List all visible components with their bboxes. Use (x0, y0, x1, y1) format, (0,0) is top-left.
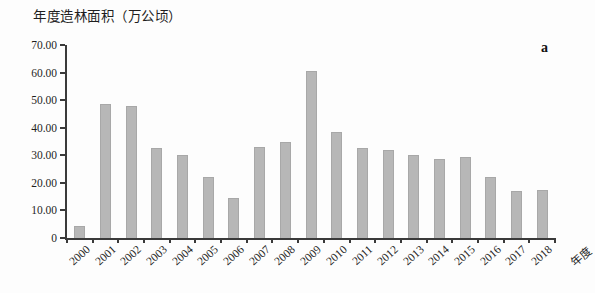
bar-2005 (203, 177, 214, 238)
bar-2011 (357, 148, 368, 238)
y-axis-tick-label: 50.00 (13, 93, 57, 107)
x-axis-tick (323, 238, 325, 243)
y-axis-tick (60, 72, 65, 74)
x-axis-tick (66, 238, 68, 243)
bar-2006 (228, 198, 239, 238)
x-axis-tick (117, 238, 119, 243)
x-axis-tick (503, 238, 505, 243)
chart-title: 年度造林面积（万公顷） (33, 5, 182, 25)
x-axis-tick-label: 2000 (67, 243, 92, 267)
x-axis-tick-label: 2014 (426, 243, 451, 267)
x-axis-tick-label: 2002 (118, 243, 143, 267)
bar-2003 (151, 148, 162, 238)
y-axis-tick-label: 0 (13, 231, 57, 245)
bar-2012 (383, 150, 394, 238)
y-axis-tick-label: 60.00 (13, 66, 57, 80)
x-axis-tick-label: 2012 (375, 243, 400, 267)
bar-2018 (537, 190, 548, 238)
y-axis-tick (60, 127, 65, 129)
x-axis-tick (92, 238, 94, 243)
x-axis-tick-label: 2009 (298, 243, 323, 267)
x-axis-tick-label: 2017 (503, 243, 528, 267)
chart-canvas: 年度造林面积（万公顷） a 010.0020.0030.0040.0050.00… (0, 0, 595, 293)
x-axis-tick (169, 238, 171, 243)
bar-2013 (408, 155, 419, 238)
x-axis-tick (374, 238, 376, 243)
plot-area: 010.0020.0030.0040.0050.0060.0070.002000… (65, 45, 555, 240)
x-axis-tick-label: 2005 (195, 243, 220, 267)
x-axis-tick-label: 2007 (247, 243, 272, 267)
bar-2009 (306, 71, 317, 238)
bar-2007 (254, 147, 265, 238)
bar-2000 (74, 226, 85, 238)
x-axis-title: 年度 (567, 243, 594, 270)
y-axis-tick (60, 209, 65, 211)
x-axis-tick-label: 2004 (170, 243, 195, 267)
x-axis-tick-label: 2018 (529, 243, 554, 267)
x-axis-tick (194, 238, 196, 243)
x-axis-tick (554, 238, 556, 243)
x-axis-tick (220, 238, 222, 243)
y-axis-tick (60, 99, 65, 101)
x-axis-tick-label: 2001 (92, 243, 117, 267)
y-axis-tick (60, 237, 65, 239)
y-axis-tick-label: 30.00 (13, 148, 57, 162)
x-axis-tick (477, 238, 479, 243)
x-axis-tick-label: 2008 (272, 243, 297, 267)
x-axis-tick-label: 2006 (221, 243, 246, 267)
x-axis-tick-label: 2016 (478, 243, 503, 267)
x-axis-tick-label: 2010 (324, 243, 349, 267)
y-axis-tick-label: 40.00 (13, 121, 57, 135)
x-axis-tick (246, 238, 248, 243)
x-axis-tick (400, 238, 402, 243)
x-axis-tick (426, 238, 428, 243)
x-axis-tick (143, 238, 145, 243)
y-axis-tick (60, 154, 65, 156)
bar-2008 (280, 142, 291, 239)
bar-2015 (460, 157, 471, 238)
bar-2004 (177, 155, 188, 238)
x-axis-tick (528, 238, 530, 243)
y-axis-tick (60, 44, 65, 46)
y-axis-tick-label: 70.00 (13, 38, 57, 52)
x-axis-tick (297, 238, 299, 243)
x-axis-tick (349, 238, 351, 243)
y-axis-tick-label: 20.00 (13, 176, 57, 190)
bar-2010 (331, 132, 342, 238)
bar-2001 (100, 104, 111, 238)
x-axis-tick-label: 2011 (350, 243, 375, 267)
x-axis-tick-label: 2013 (401, 243, 426, 267)
x-axis-tick (451, 238, 453, 243)
x-axis-tick-label: 2003 (144, 243, 169, 267)
y-axis-tick-label: 10.00 (13, 203, 57, 217)
bar-2017 (511, 191, 522, 238)
x-axis-tick (271, 238, 273, 243)
bar-2014 (434, 159, 445, 238)
bar-2002 (126, 106, 137, 238)
x-axis-tick-label: 2015 (452, 243, 477, 267)
bar-2016 (485, 177, 496, 238)
y-axis-tick (60, 182, 65, 184)
